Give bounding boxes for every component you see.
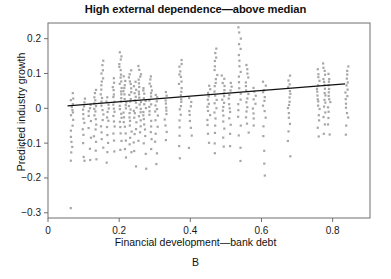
data-point [229, 111, 231, 113]
data-point [208, 103, 210, 105]
data-point [263, 163, 265, 165]
data-point [223, 89, 225, 91]
data-point [228, 98, 230, 100]
data-point [128, 76, 130, 78]
data-point [214, 60, 216, 62]
data-point [125, 132, 127, 134]
data-point [346, 88, 348, 90]
data-point [119, 51, 121, 53]
data-point [95, 105, 97, 107]
data-point [95, 124, 97, 126]
data-point [133, 150, 135, 152]
data-point [133, 85, 135, 87]
data-point [180, 94, 182, 96]
data-point [112, 96, 114, 98]
data-point [214, 117, 216, 119]
data-point [215, 82, 217, 84]
data-point [317, 105, 319, 107]
data-point [316, 88, 318, 90]
data-point [134, 112, 136, 114]
data-point [238, 60, 240, 62]
y-tick-label: −0.3 [21, 207, 41, 218]
data-point [156, 152, 158, 154]
data-point [154, 141, 156, 143]
data-point [318, 108, 320, 110]
data-point [130, 83, 132, 85]
data-point [238, 81, 240, 83]
data-point [238, 134, 240, 136]
data-point [143, 142, 145, 144]
data-point [124, 148, 126, 150]
data-point [120, 55, 122, 57]
data-point [82, 128, 84, 130]
data-point [215, 48, 217, 50]
data-point [255, 95, 257, 97]
data-point [245, 110, 247, 112]
data-point [215, 78, 217, 80]
data-point [124, 84, 126, 86]
data-point [137, 140, 139, 142]
data-point [154, 104, 156, 106]
data-point [228, 117, 230, 119]
data-point [180, 114, 182, 116]
data-point [83, 160, 85, 162]
data-point [135, 107, 137, 109]
data-point [133, 110, 135, 112]
data-point [318, 135, 320, 137]
data-point [157, 114, 159, 116]
data-point [324, 74, 326, 76]
data-point [328, 91, 330, 93]
data-point [140, 119, 142, 121]
data-point [317, 98, 319, 100]
figure-panel-b: High external dependence—above median Pr… [0, 0, 391, 279]
data-point [155, 94, 157, 96]
data-point [178, 66, 180, 68]
data-point [188, 147, 190, 149]
data-point [328, 98, 330, 100]
data-point [120, 58, 122, 60]
data-point [122, 112, 124, 114]
data-point [324, 111, 326, 113]
data-points [70, 26, 350, 209]
data-point [113, 77, 115, 79]
data-point [71, 146, 73, 148]
data-point [347, 116, 349, 118]
data-point [230, 124, 232, 126]
data-point [129, 73, 131, 75]
data-point [82, 109, 84, 111]
data-point [179, 126, 181, 128]
data-point [120, 69, 122, 71]
data-point [113, 120, 115, 122]
data-point [72, 97, 74, 99]
data-point [209, 88, 211, 90]
regression-line [68, 84, 346, 106]
data-point [345, 134, 347, 136]
data-point [113, 108, 115, 110]
data-point [213, 111, 215, 113]
data-point [113, 111, 115, 113]
data-point [119, 126, 121, 128]
data-point [123, 75, 125, 77]
data-point [165, 110, 167, 112]
data-point [214, 85, 216, 87]
data-point [94, 128, 96, 130]
data-point [121, 87, 123, 89]
scatter-plot: 00.20.40.60.80.20.10−0.1−0.2−0.3 [0, 0, 391, 279]
data-point [245, 85, 247, 87]
data-point [134, 81, 136, 83]
data-point [289, 155, 291, 157]
data-point [106, 96, 108, 98]
data-point [230, 82, 232, 84]
data-point [221, 99, 223, 101]
data-point [222, 137, 224, 139]
data-point [240, 93, 242, 95]
data-point [222, 110, 224, 112]
data-point [344, 91, 346, 93]
data-point [223, 128, 225, 130]
data-point [214, 65, 216, 67]
data-point [128, 116, 130, 118]
data-point [189, 114, 191, 116]
data-point [150, 95, 152, 97]
data-point [180, 76, 182, 78]
data-point [150, 125, 152, 127]
